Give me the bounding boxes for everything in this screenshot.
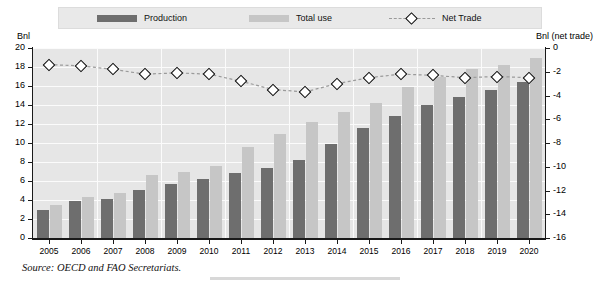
x-axis-label: 2019 — [480, 246, 514, 256]
legend-swatch-total-use — [249, 15, 289, 22]
y-axis-tick-right — [546, 191, 550, 192]
x-axis-label: 2011 — [224, 246, 258, 256]
x-axis-label: 2014 — [320, 246, 354, 256]
x-axis-label: 2018 — [448, 246, 482, 256]
x-axis-tick — [401, 240, 402, 244]
y-axis-tick-right — [546, 48, 550, 49]
y-axis-tick-left — [28, 67, 32, 68]
y-axis-label-left: 0 — [4, 232, 25, 242]
y-axis-label-left: 4 — [4, 194, 25, 204]
diamond-marker-icon — [405, 12, 418, 25]
page-footer-artifact — [210, 277, 400, 280]
x-axis-label: 2017 — [416, 246, 450, 256]
y-axis-label-right: -14 — [553, 208, 577, 218]
legend-item-net-trade: Net Trade — [389, 8, 482, 28]
y-axis-label-right: -8 — [553, 137, 577, 147]
y-axis-label-right: -2 — [553, 66, 577, 76]
y-axis-tick-left — [28, 143, 32, 144]
y-axis-tick-left — [28, 105, 32, 106]
y-axis-label-left: 6 — [4, 175, 25, 185]
bar-total-use — [210, 166, 222, 238]
y-axis-label-left: 16 — [4, 80, 25, 90]
y-axis-label-left: 2 — [4, 213, 25, 223]
y-axis-tick-right — [546, 214, 550, 215]
y-axis-label-left: 18 — [4, 61, 25, 71]
y-axis-label-left: 12 — [4, 118, 25, 128]
y-axis-tick-right — [546, 72, 550, 73]
bar-total-use — [178, 172, 190, 238]
bar-total-use — [402, 87, 414, 238]
x-axis-tick — [241, 240, 242, 244]
x-axis-label: 2012 — [256, 246, 290, 256]
bar-production — [517, 82, 529, 238]
legend-item-production: Production — [97, 8, 187, 28]
y-axis-tick-right — [546, 96, 550, 97]
y-axis-tick-right — [546, 143, 550, 144]
legend-label-total-use: Total use — [296, 13, 332, 23]
gridline-vertical — [353, 48, 354, 238]
y-axis-tick-left — [28, 124, 32, 125]
bar-production — [197, 179, 209, 238]
gridline-vertical — [417, 48, 418, 238]
x-axis-label: 2013 — [288, 246, 322, 256]
bar-total-use — [498, 65, 510, 238]
y-axis-tick-right — [546, 119, 550, 120]
x-axis-tick — [465, 240, 466, 244]
bar-total-use — [82, 197, 94, 238]
bar-production — [69, 201, 81, 238]
x-axis-tick — [529, 240, 530, 244]
source-note: Source: OECD and FAO Secretariats. — [22, 262, 181, 273]
y-axis-label-right: -12 — [553, 185, 577, 195]
bar-total-use — [274, 134, 286, 239]
y-axis-label-right: -4 — [553, 90, 577, 100]
y-axis-unit-left: Bnl — [17, 31, 30, 41]
x-axis-tick — [81, 240, 82, 244]
x-axis-label: 2010 — [192, 246, 226, 256]
x-axis-tick — [49, 240, 50, 244]
bar-total-use — [434, 77, 446, 238]
y-axis-unit-right: Bnl (net trade) — [536, 31, 593, 41]
chart-figure: Production Total use Net Trade Bnl Bnl (… — [0, 0, 597, 283]
bar-production — [325, 144, 337, 238]
x-axis-label: 2016 — [384, 246, 418, 256]
legend-line-net-trade — [389, 14, 435, 23]
x-axis-label: 2007 — [96, 246, 130, 256]
gridline-vertical — [97, 48, 98, 238]
x-axis-label: 2009 — [160, 246, 194, 256]
y-axis-label-left: 8 — [4, 156, 25, 166]
bar-production — [485, 90, 497, 238]
bar-total-use — [370, 103, 382, 238]
legend-label-net-trade: Net Trade — [442, 13, 482, 23]
x-axis-tick — [433, 240, 434, 244]
bar-total-use — [146, 175, 158, 238]
y-axis-tick-left — [28, 48, 32, 49]
bar-total-use — [242, 147, 254, 238]
x-axis-tick — [145, 240, 146, 244]
y-axis-tick-left — [28, 219, 32, 220]
y-axis-left — [32, 47, 33, 239]
bar-total-use — [50, 205, 62, 238]
legend-label-production: Production — [144, 13, 187, 23]
x-axis-label: 2015 — [352, 246, 386, 256]
bar-total-use — [338, 112, 350, 238]
bar-production — [261, 168, 273, 238]
y-axis-tick-left — [28, 181, 32, 182]
x-axis — [32, 238, 546, 240]
y-axis-tick-left — [28, 86, 32, 87]
plot-area — [33, 48, 545, 238]
y-axis-label-left: 10 — [4, 137, 25, 147]
x-axis-tick — [369, 240, 370, 244]
y-axis-tick-left — [28, 162, 32, 163]
y-axis-label-left: 14 — [4, 99, 25, 109]
bar-total-use — [306, 122, 318, 238]
bar-total-use — [114, 193, 126, 238]
y-axis-label-right: 0 — [553, 42, 577, 52]
bar-production — [101, 199, 113, 238]
x-axis-label: 2020 — [512, 246, 546, 256]
x-axis-label: 2006 — [64, 246, 98, 256]
y-axis-tick-right — [546, 238, 550, 239]
gridline-vertical — [225, 48, 226, 238]
gridline-vertical — [481, 48, 482, 238]
x-axis-tick — [113, 240, 114, 244]
x-axis-tick — [305, 240, 306, 244]
